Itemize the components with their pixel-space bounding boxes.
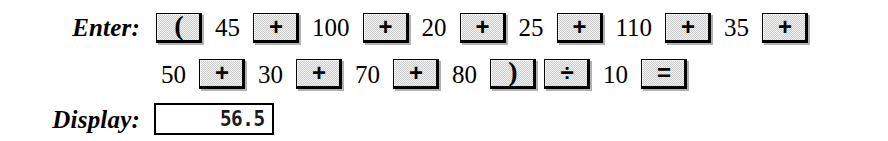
calculator-keystroke-figure: Enter: (45+100+20+25+110+35+ 50+30+70+80… [0, 0, 888, 141]
display-value: 56.5 [220, 109, 265, 130]
plus-key-glyph: + [572, 15, 586, 39]
enter-row: Enter: (45+100+20+25+110+35+ [0, 5, 888, 50]
operand: 50 [152, 62, 195, 87]
open-paren-key-glyph: ( [174, 12, 183, 40]
plus-key-glyph: + [312, 61, 326, 85]
equals-key-glyph: = [657, 61, 671, 85]
enter-label: Enter: [0, 15, 152, 40]
display-label: Display: [0, 107, 152, 132]
plus-key-glyph: + [681, 15, 695, 39]
open-paren-key[interactable]: ( [156, 13, 202, 43]
keystroke-strip-row-2: 50+30+70+80)÷10= [152, 59, 691, 89]
plus-key[interactable]: + [253, 13, 299, 43]
divide-key-glyph: ÷ [560, 61, 573, 85]
close-paren-key[interactable]: ) [490, 59, 536, 89]
plus-key[interactable]: + [665, 13, 711, 43]
operand: 35 [715, 15, 758, 40]
calculator-display: 56.5 [154, 103, 274, 135]
operand: 70 [346, 62, 389, 87]
plus-key-glyph: + [269, 15, 283, 39]
equals-key[interactable]: = [641, 59, 687, 89]
plus-key[interactable]: + [460, 13, 506, 43]
operand: 10 [594, 62, 637, 87]
plus-key-glyph: + [378, 15, 392, 39]
divide-key[interactable]: ÷ [544, 59, 590, 89]
display-row: Display: 56.5 [0, 97, 888, 141]
operand: 30 [249, 62, 292, 87]
operand: 110 [607, 15, 662, 40]
keystroke-strip-row-1: (45+100+20+25+110+35+ [152, 13, 812, 43]
plus-key[interactable]: + [557, 13, 603, 43]
operand: 45 [206, 15, 249, 40]
plus-key-glyph: + [215, 61, 229, 85]
enter-row-continued: 50+30+70+80)÷10= [0, 52, 888, 96]
plus-key[interactable]: + [363, 13, 409, 43]
operand: 25 [510, 15, 553, 40]
close-paren-key-glyph: ) [508, 58, 517, 86]
operand: 80 [443, 62, 486, 87]
operand: 20 [413, 15, 456, 40]
plus-key-glyph: + [409, 61, 423, 85]
plus-key[interactable]: + [393, 59, 439, 89]
plus-key[interactable]: + [296, 59, 342, 89]
plus-key-glyph: + [475, 15, 489, 39]
plus-key[interactable]: + [762, 13, 808, 43]
operand: 100 [303, 15, 359, 40]
plus-key[interactable]: + [199, 59, 245, 89]
plus-key-glyph: + [778, 15, 792, 39]
